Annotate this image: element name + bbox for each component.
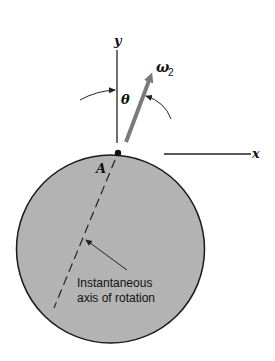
annotation-line-2: axis of rotation (77, 291, 155, 305)
disk (17, 155, 205, 343)
angular-velocity-vector-icon (126, 78, 150, 142)
x-axis-label: x (251, 146, 260, 161)
omega-subscript: 2 (168, 67, 174, 78)
theta-label: θ (121, 92, 130, 107)
annotation-line-1: Instantaneous (77, 276, 152, 290)
theta-arc-arrow-icon (80, 90, 115, 100)
rotation-diagram: y x θ ω 2 A Instantaneous axis of rotati… (0, 0, 275, 361)
y-axis-label: y (113, 33, 123, 48)
point-a-label: A (94, 161, 106, 176)
rotation-arc-arrow-icon (146, 96, 171, 119)
point-a-dot (115, 150, 121, 156)
